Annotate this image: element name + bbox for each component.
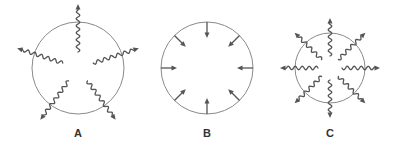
wavy-arrow-icon <box>338 76 365 103</box>
diagram-canvas: A B C <box>0 0 398 146</box>
panel-c <box>280 18 380 118</box>
wavy-arrow-icon <box>328 18 333 56</box>
panel-a-boundary-circle <box>32 22 124 114</box>
wavy-arrow-icon <box>280 66 318 71</box>
wavy-arrow-shaft <box>93 49 136 64</box>
wavy-arrow-icon <box>342 66 380 71</box>
straight-arrow-icon <box>205 98 210 114</box>
wavy-arrow-shaft <box>283 66 318 70</box>
arrowhead <box>280 66 286 71</box>
straight-arrow-shaft <box>231 35 239 43</box>
wavy-arrow-icon <box>76 4 81 52</box>
straight-arrow-shaft <box>174 92 182 100</box>
wavy-arrow-shaft <box>342 66 377 70</box>
arrowhead <box>328 113 333 119</box>
panel-a-label: A <box>74 127 82 139</box>
straight-arrow-shaft <box>231 92 239 100</box>
arrowhead <box>110 114 115 120</box>
arrowhead <box>237 66 243 71</box>
straight-arrow-icon <box>174 89 185 100</box>
straight-arrow-icon <box>205 22 210 38</box>
panel-b-label: B <box>203 127 211 139</box>
wavy-arrow-icon <box>17 48 63 64</box>
arrowhead <box>76 4 81 10</box>
arrowhead <box>133 48 139 53</box>
wavy-arrow-shaft <box>338 35 363 60</box>
wavy-arrow-shaft <box>297 35 322 60</box>
straight-arrow-icon <box>174 35 185 46</box>
wavy-arrow-icon <box>93 48 139 65</box>
wavy-arrow-shaft <box>328 21 332 56</box>
wavy-arrow-shaft <box>297 76 322 101</box>
straight-arrow-icon <box>237 66 253 71</box>
wavy-arrow-icon <box>328 80 333 118</box>
arrowhead <box>17 48 23 53</box>
straight-arrow-icon <box>161 66 177 71</box>
wavy-arrow-shaft <box>76 7 80 52</box>
arrowhead <box>172 66 178 71</box>
wavy-arrow-shaft <box>338 76 363 101</box>
wavy-arrow-icon <box>295 33 322 60</box>
wavy-arrow-icon <box>338 33 365 60</box>
arrowhead <box>205 98 210 104</box>
panel-c-boundary-circle <box>295 33 365 103</box>
arrowhead <box>375 66 381 71</box>
arrowhead <box>205 33 210 39</box>
straight-arrow-icon <box>228 35 239 46</box>
straight-arrow-icon <box>228 89 239 100</box>
wavy-arrow-shaft <box>20 49 63 63</box>
straight-arrow-shaft <box>174 35 182 43</box>
panel-b <box>161 22 253 114</box>
arrowhead <box>328 18 333 24</box>
panel-c-label: C <box>326 127 334 139</box>
wavy-arrow-shaft <box>328 80 332 115</box>
panel-a <box>17 4 139 120</box>
wavy-arrow-icon <box>295 76 322 103</box>
